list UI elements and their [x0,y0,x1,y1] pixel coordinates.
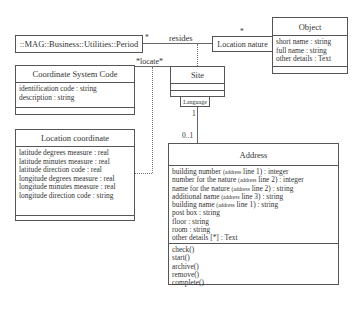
attribute: longitude direction code : string [19,192,131,201]
object-class[interactable]: Object short name : string full name : s… [272,17,348,74]
address-header: Address [169,144,338,166]
attribute: other details : Text [276,55,344,64]
attribute: other details [*] : Text [172,234,335,242]
coordinate-system-code-class[interactable]: Coordinate System Code identification co… [15,65,135,115]
location-coordinate-class[interactable]: Location coordinate latitude degrees mea… [15,129,135,221]
locate-dotted-horizontal [135,173,152,174]
location-nature-class[interactable]: Location nature [212,36,273,52]
site-class[interactable]: Site [170,66,225,97]
location-nature-name: Location nature [217,40,267,49]
object-header: Object [273,18,347,36]
locate-label: *locate* [136,57,163,66]
object-attributes: short name : string full name : string o… [273,36,347,67]
attribute: description : string [19,94,131,103]
language-label: Language [183,99,207,105]
address-multiplicity: 0..1 [182,131,193,140]
coordinate-system-code-attributes: identification code : string description… [16,83,134,108]
resides-period-multiplicity: * [145,33,149,42]
site-header: Site [171,67,224,84]
coordinate-system-code-header: Coordinate System Code [16,66,134,83]
resides-site-dotted-link [197,44,198,66]
operation: check() [172,246,335,254]
operation: complete() [172,279,335,287]
site-address-association-line [197,106,198,143]
period-class-name: ::MAG::Business::Utilities::Period [20,39,139,49]
resides-association-line [143,43,212,44]
site-attributes-compartment [171,84,224,91]
address-class[interactable]: Address building number (address line 1)… [168,143,339,285]
period-class[interactable]: ::MAG::Business::Utilities::Period [15,35,143,53]
location-coordinate-header: Location coordinate [16,130,134,147]
locate-dotted-vertical [152,67,153,173]
site-multiplicity: 1 [192,109,196,118]
language-qualifier[interactable]: Language [180,96,210,107]
address-operations: check() start() archive() remove() compl… [169,244,338,289]
address-attributes: building number (address line 1) : integ… [169,166,338,244]
location-coordinate-attributes: latitude degrees measure : real latitude… [16,147,134,216]
resides-location-nature-multiplicity: * [240,27,244,36]
resides-label: resides [169,33,193,43]
